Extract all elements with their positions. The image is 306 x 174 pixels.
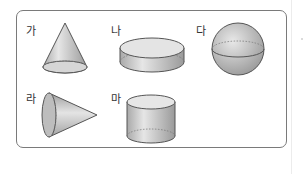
cylinder-icon [127,95,175,143]
short-cylinder-icon [120,38,184,72]
cone-upright-icon [43,23,87,73]
shapes-canvas [0,0,306,174]
cone-sideways-icon [42,93,97,137]
sphere-icon [212,23,264,75]
